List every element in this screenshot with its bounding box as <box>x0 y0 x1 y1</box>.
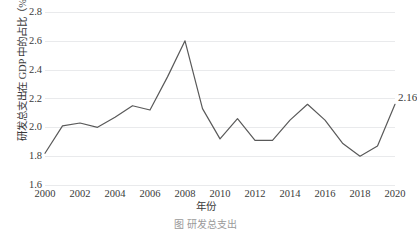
x-tick-label: 2012 <box>235 187 275 201</box>
x-tick-label: 2006 <box>130 187 170 201</box>
y-tick-label: 2.6 <box>16 36 42 46</box>
x-tick-label: 2018 <box>340 187 380 201</box>
series-line <box>45 12 395 185</box>
y-tick-label: 2.0 <box>16 122 42 132</box>
figure-caption: 图 研发总支出 <box>0 219 411 230</box>
y-tick-label: 1.8 <box>16 151 42 161</box>
y-tick-label: 2.2 <box>16 94 42 104</box>
x-axis-title: 年份 <box>0 200 411 213</box>
plot-area <box>45 12 395 185</box>
x-tick-label: 2008 <box>165 187 205 201</box>
data-label-2020: 2.16 <box>398 92 417 103</box>
gridline <box>45 185 395 186</box>
y-tick-label: 2.8 <box>16 7 42 17</box>
x-tick-label: 2010 <box>200 187 240 201</box>
x-tick-label: 2020 <box>375 187 415 201</box>
y-tick-label: 2.4 <box>16 65 42 75</box>
x-tick-label: 2014 <box>270 187 310 201</box>
x-tick-label: 2000 <box>25 187 65 201</box>
x-tick-label: 2002 <box>60 187 100 201</box>
x-tick-label: 2016 <box>305 187 345 201</box>
x-tick-label: 2004 <box>95 187 135 201</box>
